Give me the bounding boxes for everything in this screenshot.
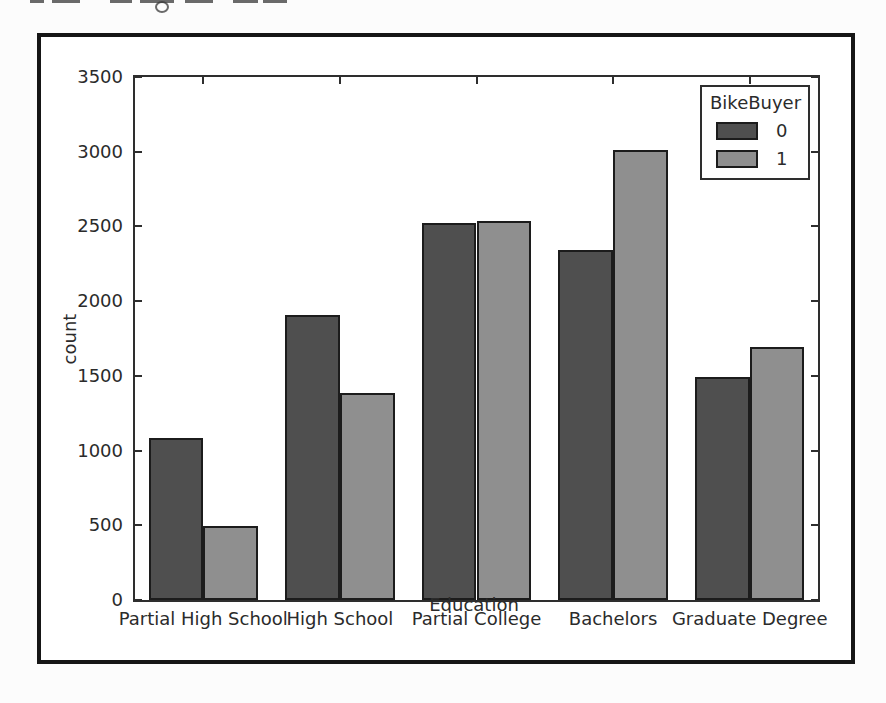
y-tick-mark [135,76,142,78]
x-tick-label: High School [286,608,393,630]
bar-partial-high-school-bikebuyer-1 [203,526,258,600]
y-tick-mark [811,375,818,377]
y-tick-mark [135,225,142,227]
y-tick-mark [135,300,142,302]
y-axis-label: count [59,313,80,364]
category-tick-mark [612,77,614,84]
bar-partial-college-bikebuyer-1 [477,221,532,600]
y-tick-mark [811,151,818,153]
x-axis-label: Education [429,594,519,615]
category-tick-mark [202,77,204,84]
legend: BikeBuyer 0 1 [700,85,810,180]
bar-high-school-bikebuyer-0 [285,315,340,600]
y-tick-mark [811,450,818,452]
y-tick-mark [135,375,142,377]
legend-swatch-series-0 [716,122,758,140]
legend-entry: 1 [710,148,800,169]
y-tick-label: 2000 [57,290,123,312]
bar-partial-college-bikebuyer-0 [422,223,477,600]
y-tick-mark [811,599,818,601]
y-tick-mark [135,151,142,153]
y-tick-mark [811,524,818,526]
bar-graduate-degree-bikebuyer-1 [750,347,805,600]
y-tick-mark [811,76,818,78]
y-tick-label: 3500 [57,66,123,88]
bar-bachelors-bikebuyer-1 [613,150,668,600]
figure-frame: 0500100015002000250030003500Partial High… [37,33,855,664]
y-tick-mark [811,225,818,227]
y-tick-label: 500 [57,514,123,536]
y-tick-label: 1500 [57,365,123,387]
y-tick-label: 0 [57,589,123,611]
bar-partial-high-school-bikebuyer-0 [149,438,204,600]
legend-label: 1 [776,148,787,169]
legend-swatch-series-1 [716,150,758,168]
bar-bachelors-bikebuyer-0 [558,250,613,600]
y-tick-mark [135,599,142,601]
y-tick-mark [135,524,142,526]
category-tick-mark [749,77,751,84]
category-tick-mark [476,77,478,84]
legend-title: BikeBuyer [710,92,800,113]
y-tick-label: 3000 [57,141,123,163]
legend-label: 0 [776,120,787,141]
y-tick-mark [135,450,142,452]
y-tick-mark [811,300,818,302]
plot-area: 0500100015002000250030003500Partial High… [133,75,820,602]
category-tick-mark [339,77,341,84]
x-tick-label: Graduate Degree [672,608,828,630]
bar-high-school-bikebuyer-1 [340,393,395,600]
y-tick-label: 1000 [57,440,123,462]
legend-entry: 0 [710,120,800,141]
x-tick-label: Bachelors [569,608,658,630]
bar-graduate-degree-bikebuyer-0 [695,377,750,600]
x-tick-label: Partial High School [119,608,288,630]
y-tick-label: 2500 [57,215,123,237]
